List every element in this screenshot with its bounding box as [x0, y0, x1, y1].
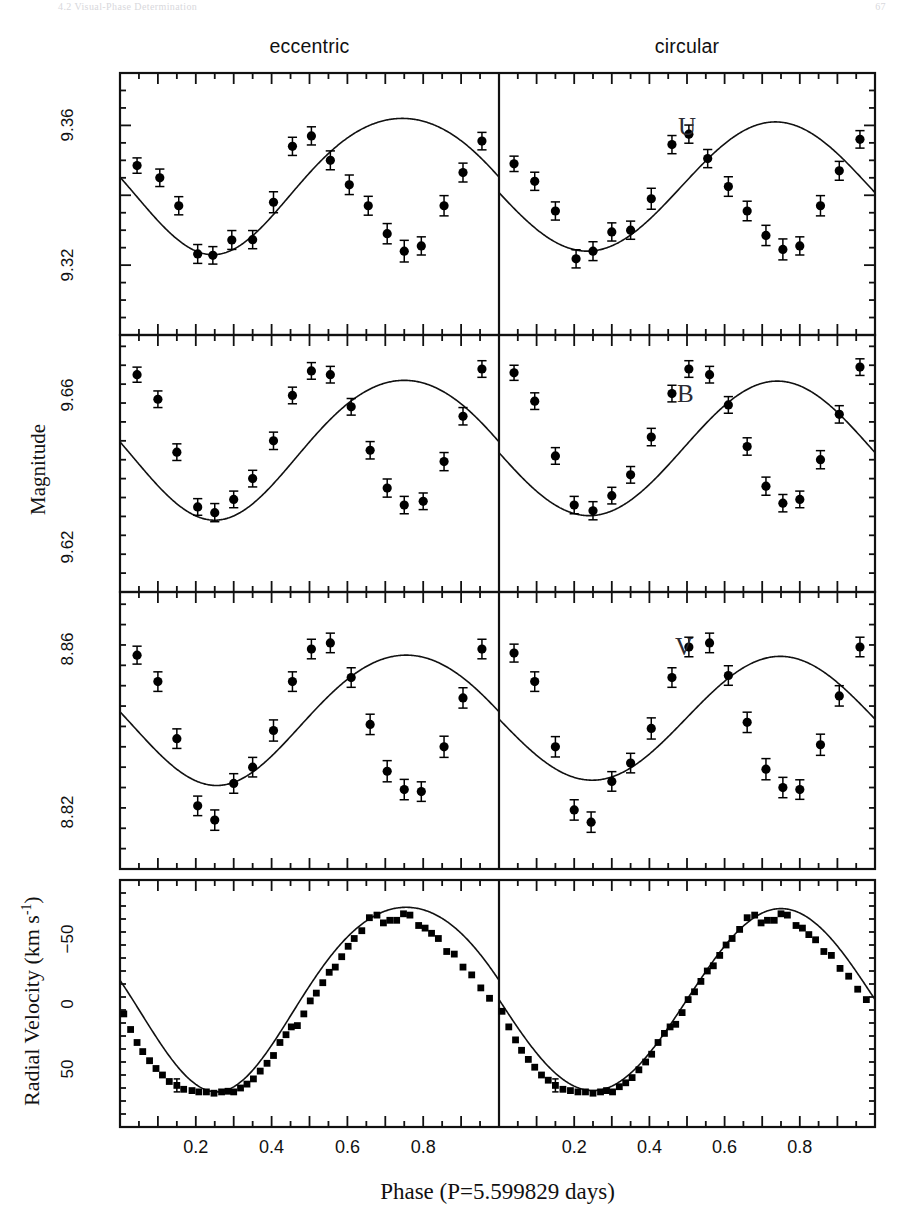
y-tick-label: 50 — [58, 1034, 78, 1104]
data-point — [300, 1011, 307, 1018]
data-point — [193, 796, 202, 816]
data-point — [417, 782, 426, 802]
data-point — [607, 772, 616, 792]
data-point — [347, 668, 356, 688]
data-point — [616, 1083, 623, 1090]
data-point — [710, 962, 717, 969]
data-point — [724, 666, 733, 686]
data-point — [153, 1065, 160, 1072]
data-point — [679, 1009, 686, 1016]
data-point — [588, 242, 597, 261]
data-point — [845, 973, 852, 980]
data-point — [134, 1039, 141, 1046]
data-point — [837, 965, 844, 972]
data-point — [460, 964, 467, 971]
data-point — [345, 175, 354, 195]
data-point — [570, 800, 579, 820]
data-point — [816, 196, 825, 216]
data-point — [588, 502, 597, 520]
rv-title-exponent: -1 — [19, 903, 34, 914]
data-point — [812, 936, 819, 943]
data-point — [210, 504, 219, 522]
x-tick-label: 0.8 — [770, 1137, 830, 1158]
data-point — [587, 812, 596, 832]
x-tick-label: 0.8 — [393, 1137, 453, 1158]
data-point — [326, 969, 333, 976]
data-point — [758, 920, 765, 927]
data-point — [685, 996, 692, 1003]
data-point — [189, 1087, 196, 1094]
data-point — [724, 177, 733, 197]
data-point — [723, 942, 730, 949]
y-tick-label: −50 — [58, 904, 78, 974]
y-tick-label: 8.82 — [58, 777, 78, 847]
data-point — [366, 914, 373, 921]
data-point — [132, 646, 141, 664]
data-point — [512, 1037, 519, 1044]
panel-letter-u: U — [678, 113, 696, 141]
data-point — [597, 1089, 604, 1096]
data-point — [307, 639, 316, 659]
data-point — [458, 163, 467, 182]
data-point — [195, 1089, 202, 1096]
data-point — [691, 988, 698, 995]
data-point — [307, 363, 316, 380]
data-point — [863, 996, 870, 1003]
data-point — [366, 442, 375, 459]
panel-frame-b — [120, 335, 875, 592]
data-point — [635, 1066, 642, 1073]
data-point — [499, 1008, 506, 1015]
data-point — [505, 1024, 512, 1031]
data-point — [288, 137, 297, 155]
data-point — [257, 1068, 264, 1075]
data-point — [358, 927, 365, 934]
data-point — [326, 633, 335, 653]
data-point — [210, 810, 219, 830]
plot-canvas — [0, 0, 908, 1231]
data-point — [764, 917, 771, 924]
data-point — [347, 398, 356, 415]
data-point — [795, 237, 804, 255]
data-point — [609, 1089, 616, 1096]
data-point — [307, 127, 316, 145]
data-point — [468, 972, 475, 979]
y-axis-title-radial-velocity: Radial Velocity (km s-1) — [19, 836, 45, 1166]
data-point — [704, 968, 711, 975]
fit-curve-u-circular — [499, 122, 875, 251]
data-point — [551, 737, 560, 757]
page-running-head: 4.2 Visual-Phase Determination 67 — [0, 0, 908, 14]
figure-root: 4.2 Visual-Phase Determination 67 eccent… — [0, 0, 908, 1231]
data-point — [778, 494, 787, 511]
data-point — [417, 237, 426, 255]
data-point — [477, 132, 486, 149]
data-point — [761, 759, 770, 780]
data-point — [642, 1059, 649, 1066]
data-point — [552, 1079, 559, 1092]
data-point — [590, 1090, 597, 1097]
data-point — [647, 718, 656, 739]
data-point — [820, 948, 827, 955]
data-point — [530, 393, 539, 410]
data-point — [729, 935, 736, 942]
data-point — [761, 225, 770, 245]
data-point — [172, 729, 181, 749]
data-point — [208, 247, 217, 264]
data-point — [173, 1079, 180, 1092]
data-point — [509, 365, 518, 380]
data-point — [855, 637, 864, 657]
data-point — [307, 998, 314, 1005]
data-point — [784, 912, 791, 919]
running-head-left: 4.2 Visual-Phase Determination — [58, 1, 197, 12]
data-point — [458, 408, 467, 425]
data-point — [684, 361, 693, 378]
data-point — [174, 197, 183, 215]
data-point — [855, 131, 864, 148]
data-point — [203, 1089, 210, 1096]
data-point — [835, 161, 844, 180]
data-point — [667, 668, 676, 688]
column-title-circular: circular — [499, 35, 875, 58]
data-point — [229, 491, 238, 508]
data-point — [629, 1074, 636, 1081]
data-point — [407, 912, 414, 919]
data-point — [743, 201, 752, 221]
